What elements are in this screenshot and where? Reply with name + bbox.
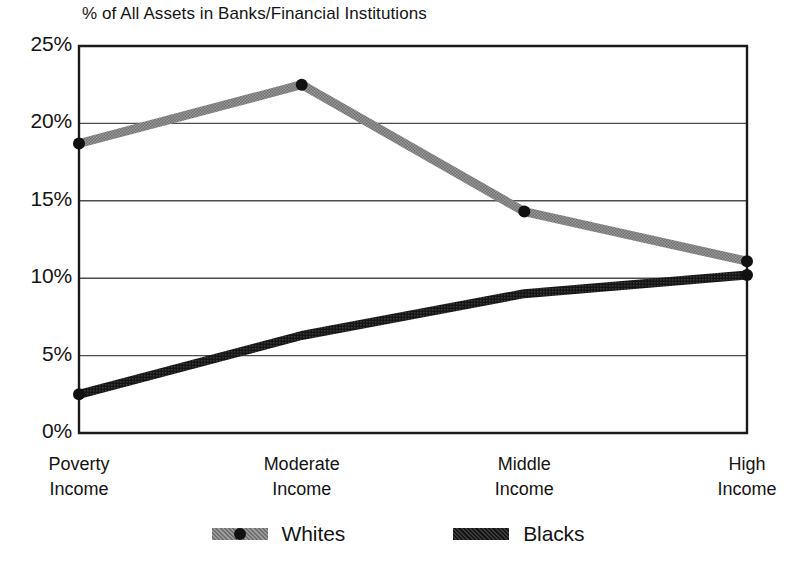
data-point-marker <box>741 255 753 267</box>
x-axis-tick-label: MiddleIncome <box>439 452 609 502</box>
x-axis-tick-label-line: Income <box>0 477 164 502</box>
y-axis-tick-label: 0% <box>6 419 72 443</box>
legend-item-whites[interactable]: Whites <box>212 522 346 546</box>
data-point-marker <box>73 138 85 150</box>
data-point-marker <box>518 206 530 218</box>
y-axis-tick-label: 25% <box>6 32 72 56</box>
legend-swatch-whites <box>212 527 268 541</box>
series-line-blacks <box>79 275 747 394</box>
legend-item-blacks[interactable]: Blacks <box>453 522 584 546</box>
x-axis-tick-label-line: Poverty <box>0 452 164 477</box>
x-axis-tick-label-line: Middle <box>439 452 609 477</box>
y-axis-tick-label: 5% <box>6 342 72 366</box>
x-axis-tick-label-line: Income <box>662 477 796 502</box>
series-layer <box>73 79 753 401</box>
x-axis-tick-label-line: Income <box>439 477 609 502</box>
series-line-whites <box>79 85 747 262</box>
legend-label: Blacks <box>523 522 584 546</box>
legend-swatch-blacks <box>453 527 509 541</box>
x-axis-tick-label: HighIncome <box>662 452 796 502</box>
x-axis-tick-label: PovertyIncome <box>0 452 164 502</box>
x-axis-tick-label-line: High <box>662 452 796 477</box>
legend-marker-dot <box>234 528 246 540</box>
chart-legend: WhitesBlacks <box>0 522 796 546</box>
data-point-marker <box>741 269 753 281</box>
legend-line-swatch <box>453 528 509 540</box>
data-point-marker <box>73 388 85 400</box>
y-axis-tick-label: 20% <box>6 109 72 133</box>
gridlines <box>79 46 747 356</box>
legend-label: Whites <box>282 522 346 546</box>
y-axis-tick-label: 10% <box>6 264 72 288</box>
x-axis-tick-label-line: Income <box>217 477 387 502</box>
y-axis-tick-label: 15% <box>6 187 72 211</box>
data-point-marker <box>296 79 308 91</box>
x-axis-tick-label-line: Moderate <box>217 452 387 477</box>
x-axis-tick-label: ModerateIncome <box>217 452 387 502</box>
chart-container: % of All Assets in Banks/Financial Insti… <box>0 0 796 563</box>
